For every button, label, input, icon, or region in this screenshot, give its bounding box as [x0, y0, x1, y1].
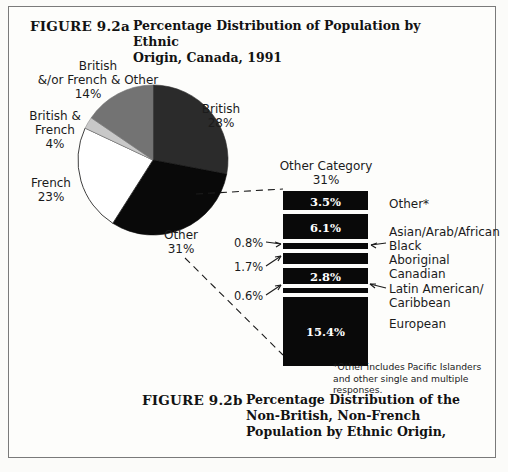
bar-header-title: Other Category [268, 160, 384, 173]
bar-side-label-black: Black [389, 239, 421, 254]
figure-b-title: Percentage Distribution of the Non-Briti… [246, 392, 486, 440]
figure-b-label: FIGURE 9.2b [142, 392, 243, 408]
leader-label-black: 0.8% [234, 237, 263, 250]
bar-side-label-asian: Asian/Arab/African [389, 225, 500, 240]
footnote-text: *Other includes Pacific Islanders and ot… [333, 361, 498, 396]
bar-side-label-european: European [389, 317, 446, 332]
bar-side-label-aboriginal-2: Canadian [389, 267, 446, 282]
bar-segment-black [283, 243, 368, 249]
bar-segment-european-value: 15.4% [284, 325, 367, 339]
bar-side-label-latin-2: Caribbean [389, 296, 451, 311]
pie-label-french-name: French [18, 177, 84, 190]
bar-segment-latin [283, 288, 368, 293]
bar-segment-other-value: 3.5% [284, 195, 367, 209]
pie-label-other-name: Other [151, 229, 211, 242]
figure-a-label: FIGURE 9.2a [30, 18, 130, 34]
pie-label-british-french-name: British & [12, 110, 98, 123]
figure-a-title: Percentage Distribution of Population by… [133, 18, 463, 66]
figure-page: FIGURE 9.2a Percentage Distribution of P… [0, 0, 508, 472]
pie-label-british-french-other-name2: &/or French & Other [18, 74, 178, 87]
pie-label-british-french-other-name: British [28, 60, 168, 73]
pie-label-british-value: 28% [188, 117, 254, 130]
leader-label-aboriginal: 1.7% [234, 261, 263, 274]
pie-label-british-french-other-value: 14% [48, 88, 128, 101]
pie-label-french-value: 23% [18, 191, 84, 204]
bar-side-label-latin: Latin American/ [389, 282, 484, 297]
bar-segment-asian: 6.1% [283, 214, 368, 239]
bar-segment-other: 3.5% [283, 191, 368, 210]
pie-label-british-french-value: 4% [12, 138, 98, 151]
pie-label-british-name: British [188, 103, 254, 116]
bar-side-label-aboriginal: Aboriginal [389, 253, 450, 268]
pie-label-other-value: 31% [151, 243, 211, 256]
bar-header-value: 31% [268, 174, 384, 187]
bar-side-label-other: Other* [389, 197, 429, 212]
stacked-bar-chart: 3.5% 6.1% 2.8% 15.4% [283, 191, 368, 366]
bar-segment-european: 15.4% [283, 297, 368, 366]
bar-segment-aboriginal [283, 253, 368, 264]
bar-segment-mid: 2.8% [283, 268, 368, 284]
bar-segment-asian-value: 6.1% [284, 221, 367, 235]
pie-label-british-french-name2: French [12, 124, 98, 137]
bar-segment-mid-value: 2.8% [284, 270, 367, 284]
leader-label-latin: 0.6% [234, 290, 263, 303]
